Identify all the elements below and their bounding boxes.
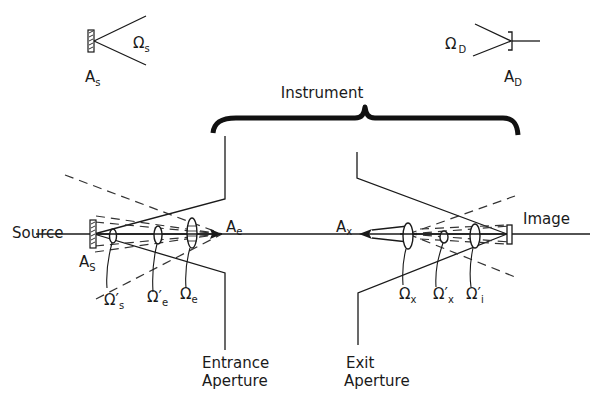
exit-aperture-label-1: Exit [346, 354, 375, 372]
entrance-area-label: Ae [226, 218, 242, 237]
omega-i-prime-label: Ω′i [466, 285, 484, 305]
detector-inset: ΩD AD [445, 24, 540, 88]
omega-e-prime-ellipse-icon [154, 226, 162, 244]
as-label: As [85, 68, 100, 88]
source-inset: Ωs As [85, 16, 150, 88]
entrance-aperture-label-1: Entrance [202, 354, 269, 372]
exit-aperture-upper-wall [357, 152, 507, 234]
omega-d-label: ΩD [445, 35, 466, 55]
source-area-label: AS [79, 253, 96, 273]
omega-x-ellipse-icon [403, 223, 413, 249]
omega-s-prime-ellipse-icon [110, 229, 117, 243]
leader-omega-x [403, 249, 406, 285]
entrance-aperture-label-2: Aperture [202, 372, 268, 390]
leader-omega-i-prime [470, 248, 473, 287]
brace-shape [213, 107, 518, 135]
instrument-brace: Instrument [213, 84, 518, 135]
instrument-label: Instrument [281, 84, 364, 102]
omega-x-label: Ωx [399, 285, 416, 305]
omega-e-label: Ωe [180, 285, 198, 305]
exit-aperture-label-2: Aperture [344, 372, 410, 390]
left-dashed-rays [65, 175, 222, 299]
entrance-aperture-upper-wall [94, 136, 225, 234]
image-label: Image [523, 210, 570, 228]
omega-x-prime-label: Ω′x [433, 285, 454, 305]
exit-area-label: Ax [336, 218, 352, 237]
instrument-etendue-diagram: Ωs As ΩD AD Instrument [0, 0, 594, 407]
leader-omega-e [186, 248, 190, 288]
source-label: Source [12, 224, 64, 242]
omega-s-label: Ωs [133, 34, 150, 54]
omega-x-prime-ellipse-icon [440, 231, 448, 243]
leader-omega-x-prime [436, 243, 443, 287]
omega-i-prime-ellipse-icon [470, 224, 480, 248]
ad-label: AD [504, 68, 522, 88]
image-element-icon [507, 225, 512, 244]
omega-e-prime-label: Ω′e [147, 288, 168, 308]
detector-cone-icon [473, 24, 511, 56]
omega-e-ellipse-icon [187, 218, 197, 248]
omega-s-prime-label: Ω′s [104, 291, 124, 311]
